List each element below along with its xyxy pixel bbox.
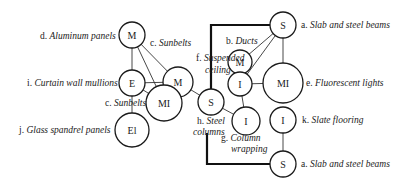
node-symbol: M: [128, 30, 137, 41]
node-n_mi_right: MI: [263, 63, 303, 103]
label-prefix: k.: [302, 115, 312, 125]
label-text: Fluorescent lights: [314, 78, 384, 88]
label-prefix: e.: [306, 78, 315, 88]
node-n_s_top: S: [270, 12, 296, 38]
label-text: ceiling: [205, 65, 231, 75]
node-n_i_slate: I: [270, 107, 296, 133]
label-prefix: c.: [105, 98, 114, 108]
label-lbl_b: b. Ducts: [226, 36, 258, 46]
node-n_i_ducts: I: [228, 72, 252, 96]
label-lbl_f2: ceiling: [205, 65, 231, 75]
label-prefix: b.: [226, 36, 236, 46]
building-component-diagram: MEMMIElSSMIMIIIS d. Aluminum panelsc. Su…: [0, 0, 408, 186]
node-symbol: MI: [158, 98, 170, 109]
label-prefix: f.: [196, 53, 204, 63]
node-symbol: E: [129, 78, 135, 89]
label-text: Steel: [207, 116, 226, 126]
label-prefix: d.: [40, 31, 50, 41]
label-lbl_c_top: c. Sunbelts: [150, 38, 191, 48]
label-prefix: j.: [18, 125, 26, 135]
label-text: Slab and steel beams: [310, 159, 390, 169]
label-prefix: a.: [301, 159, 310, 169]
node-symbol: S: [280, 20, 286, 31]
label-text: Sunbelts: [114, 98, 146, 108]
label-lbl_d: d. Aluminum panels: [40, 31, 116, 41]
label-prefix: i.: [27, 78, 34, 88]
label-lbl_j: j. Glass spandrel panels: [18, 125, 111, 135]
label-text: Suspended: [204, 53, 245, 63]
label-prefix: c.: [150, 38, 159, 48]
label-text: Curtain wall mullions: [34, 78, 118, 88]
node-n_s_bot: S: [270, 151, 296, 177]
label-lbl_c_bot: c. Sunbelts: [105, 98, 146, 108]
node-n_i_wrap: I: [232, 107, 260, 135]
label-lbl_g2: wrapping: [231, 144, 268, 154]
node-n_s_mid: S: [198, 89, 224, 115]
label-lbl_i: i. Curtain wall mullions: [27, 78, 118, 88]
label-prefix: g.: [221, 133, 231, 143]
node-n_m_top: M: [119, 22, 145, 48]
label-text: Column: [231, 133, 261, 143]
label-prefix: h.: [197, 116, 207, 126]
label-lbl_f1: f. Suspended: [196, 53, 245, 63]
label-lbl_g1: g. Column: [221, 133, 261, 143]
node-n_mi_left: MI: [146, 85, 182, 121]
node-symbol: I: [281, 115, 284, 126]
node-n_e: E: [119, 70, 145, 96]
node-n_el: El: [115, 113, 149, 147]
node-symbol: El: [128, 125, 137, 136]
label-prefix: a.: [301, 20, 310, 30]
node-symbol: I: [244, 116, 247, 127]
label-lbl_a_top: a. Slab and steel beams: [301, 20, 390, 30]
label-text: Slab and steel beams: [310, 20, 390, 30]
node-symbol: I: [238, 79, 241, 90]
node-symbol: S: [208, 97, 214, 108]
node-symbol: S: [280, 159, 286, 170]
label-text: Ducts: [235, 36, 258, 46]
label-text: Sunbelts: [159, 38, 191, 48]
label-text: Aluminum panels: [49, 31, 117, 41]
node-symbol: M: [174, 77, 183, 88]
label-lbl_k: k. Slate flooring: [302, 115, 364, 125]
label-text: wrapping: [231, 144, 268, 154]
node-symbol: MI: [277, 78, 289, 89]
label-text: Glass spandrel panels: [26, 125, 110, 135]
label-text: Slate flooring: [312, 115, 364, 125]
label-lbl_h1: h. Steel: [197, 116, 225, 126]
label-lbl_e: e. Fluorescent lights: [306, 78, 384, 88]
label-lbl_a_bot: a. Slab and steel beams: [301, 159, 390, 169]
